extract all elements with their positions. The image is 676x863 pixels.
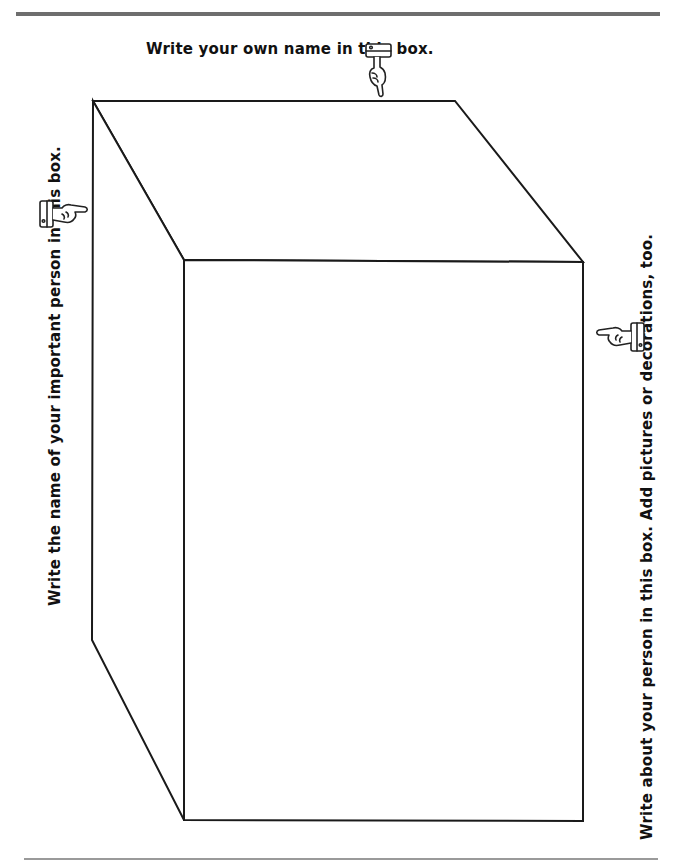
cube-diagram: [0, 0, 676, 863]
front-face-writing-box[interactable]: [184, 260, 583, 821]
pointing-hand-right-icon: [38, 198, 90, 230]
pointing-hand-left-icon: [594, 320, 646, 354]
pointing-hand-down-icon: [364, 42, 394, 98]
bottom-rule: [24, 858, 658, 860]
